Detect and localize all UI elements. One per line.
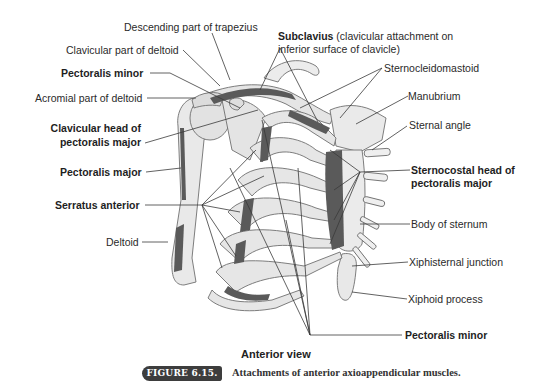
figure-caption: Attachments of anterior axioappendicular… — [232, 367, 461, 378]
label-clavicular-deltoid: Clavicular part of deltoid — [66, 44, 179, 56]
figure-number-badge: FIGURE 6.15. — [142, 366, 222, 381]
label-pectoralis-minor-top: Pectoralis minor — [61, 67, 143, 79]
label-sternocostal-head-line2: pectoralis major — [411, 177, 492, 189]
label-manubrium: Manubrium — [408, 90, 461, 102]
label-subclavius-name: Subclavius — [278, 30, 333, 42]
label-sternocleidomastoid: Sternocleidomastoid — [384, 62, 479, 74]
label-subclavius-line2: inferior surface of clavicle) — [278, 43, 400, 55]
anatomy-figure: Descending part of trapezius Clavicular … — [0, 0, 543, 391]
label-subclavius-detail: (clavicular attachment on — [333, 30, 453, 42]
label-serratus-anterior: Serratus anterior — [55, 199, 140, 211]
label-acromial-deltoid: Acromial part of deltoid — [35, 92, 142, 104]
bone-illustration — [172, 61, 391, 311]
label-sternal-angle: Sternal angle — [409, 119, 471, 131]
label-clavicular-head-line2: pectoralis major — [45, 136, 141, 148]
label-subclavius: Subclavius (clavicular attachment on — [278, 30, 453, 42]
label-sternocostal-head-line1: Sternocostal head of — [411, 164, 515, 176]
label-descending-trapezius: Descending part of trapezius — [124, 21, 258, 33]
label-body-of-sternum: Body of sternum — [411, 218, 487, 230]
label-clavicular-head-line1: Clavicular head of — [45, 122, 141, 134]
label-xiphisternal-junction: Xiphisternal junction — [409, 256, 503, 268]
label-pectoralis-minor-bottom: Pectoralis minor — [405, 329, 487, 341]
label-pectoralis-major: Pectoralis major — [60, 166, 142, 178]
label-xiphoid-process: Xiphoid process — [408, 293, 483, 305]
view-label: Anterior view — [241, 348, 311, 360]
label-deltoid: Deltoid — [106, 236, 139, 248]
